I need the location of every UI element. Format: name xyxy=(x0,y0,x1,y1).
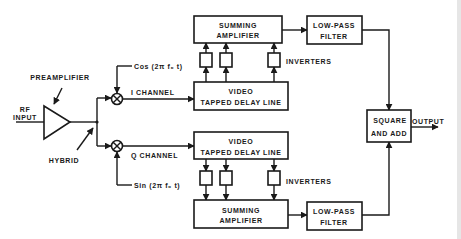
svg-text:TAPPED DELAY LINE: TAPPED DELAY LINE xyxy=(201,149,282,156)
svg-text:TAPPED DELAY LINE: TAPPED DELAY LINE xyxy=(201,99,282,106)
i-inverters xyxy=(200,43,280,82)
svg-text:SUMMING: SUMMING xyxy=(219,22,257,29)
i-low-pass-filter: LOW-PASS FILTER xyxy=(307,16,362,44)
i-inverters-label: INVERTERS xyxy=(286,58,331,65)
square-and-add-block: SQUARE AND ADD xyxy=(367,110,411,142)
svg-text:SUMMING: SUMMING xyxy=(222,207,260,214)
svg-text:VIDEO: VIDEO xyxy=(229,88,254,95)
i-filter-to-combiner xyxy=(362,30,389,110)
svg-text:LOW-PASS: LOW-PASS xyxy=(313,22,355,29)
sin-reference-label: Sin (2π f₀ t) xyxy=(134,182,180,190)
output-label: OUTPUT xyxy=(412,118,444,125)
rf-input-label: RF INPUT xyxy=(13,106,37,121)
block-diagram: RF INPUT PREAMPLIFIER HYBRID Cos (2π f₀ … xyxy=(0,0,461,239)
svg-text:AMPLIFIER: AMPLIFIER xyxy=(219,217,262,224)
q-filter-to-combiner xyxy=(362,142,389,215)
q-delay-line: VIDEO TAPPED DELAY LINE xyxy=(194,132,288,159)
q-inverters-label: INVERTERS xyxy=(286,178,331,185)
q-low-pass-filter: LOW-PASS FILTER xyxy=(307,202,362,230)
i-mixer-icon xyxy=(112,94,123,105)
svg-text:RF: RF xyxy=(20,106,31,113)
preamplifier-label: PREAMPLIFIER xyxy=(30,74,89,81)
preamplifier-pointer xyxy=(54,88,62,104)
q-channel-label: Q CHANNEL xyxy=(131,152,178,160)
svg-text:INPUT: INPUT xyxy=(13,114,37,121)
i-delay-line: VIDEO TAPPED DELAY LINE xyxy=(194,82,288,110)
cos-reference-label: Cos (2π f₀ t) xyxy=(134,63,183,71)
hybrid-label: HYBRID xyxy=(49,157,79,164)
svg-text:VIDEO: VIDEO xyxy=(229,138,254,145)
q-mixer-icon xyxy=(112,141,123,152)
q-inverters xyxy=(200,159,280,200)
q-summing-amplifier: SUMMING AMPLIFIER xyxy=(194,200,288,228)
preamplifier-triangle xyxy=(44,106,70,139)
svg-text:AMPLIFIER: AMPLIFIER xyxy=(216,32,259,39)
svg-text:FILTER: FILTER xyxy=(320,33,348,40)
svg-text:SQUARE: SQUARE xyxy=(373,117,407,125)
i-summing-amplifier: SUMMING AMPLIFIER xyxy=(194,16,282,43)
hybrid-pointer xyxy=(77,128,93,150)
svg-text:AND ADD: AND ADD xyxy=(371,130,407,137)
i-channel-label: I CHANNEL xyxy=(131,89,175,96)
page-edge xyxy=(457,0,461,239)
svg-text:LOW-PASS: LOW-PASS xyxy=(313,208,355,215)
svg-text:FILTER: FILTER xyxy=(320,219,348,226)
